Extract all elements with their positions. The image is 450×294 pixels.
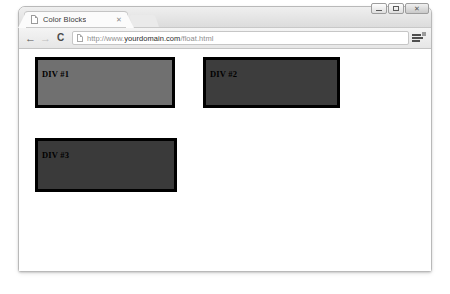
tab-title: Color Blocks [43, 15, 86, 24]
url-path: /float.html [180, 34, 213, 43]
minimize-button[interactable] [371, 3, 387, 14]
url-scheme: http://www. [87, 34, 124, 43]
close-icon: ✕ [414, 5, 420, 12]
maximize-button[interactable] [388, 3, 404, 14]
color-block: DIV #1 [35, 57, 175, 108]
close-button[interactable]: ✕ [405, 3, 429, 14]
url-host: yourdomain.com [124, 34, 180, 43]
page-viewport: DIV #1 DIV #2 DIV #3 [19, 49, 431, 271]
minimize-icon [376, 10, 382, 11]
address-bar[interactable]: http://www.yourdomain.com/float.html [72, 31, 409, 45]
url-text: http://www.yourdomain.com/float.html [87, 34, 213, 43]
tab-close-icon[interactable]: ✕ [116, 16, 122, 23]
color-block: DIV #2 [203, 57, 340, 108]
hamburger-menu-icon[interactable] [412, 31, 426, 45]
browser-toolbar: ← → C http://www.yourdomain.com/float.ht… [19, 28, 431, 49]
color-block: DIV #3 [35, 138, 177, 192]
tab-favicon-icon [31, 15, 38, 24]
tab-strip: Color Blocks ✕ ✕ [19, 7, 431, 28]
page-info-icon [77, 34, 83, 42]
window-controls: ✕ [371, 3, 429, 14]
color-block-label: DIV #3 [42, 150, 69, 160]
browser-window: Color Blocks ✕ ✕ ← → C http://www.yourdo… [18, 6, 432, 272]
back-button[interactable]: ← [23, 31, 38, 46]
browser-tab[interactable]: Color Blocks ✕ [24, 11, 128, 27]
color-block-label: DIV #2 [210, 69, 237, 79]
color-block-label: DIV #1 [42, 69, 69, 79]
maximize-icon [393, 6, 399, 11]
reload-button[interactable]: C [53, 31, 68, 46]
forward-button[interactable]: → [38, 31, 53, 46]
